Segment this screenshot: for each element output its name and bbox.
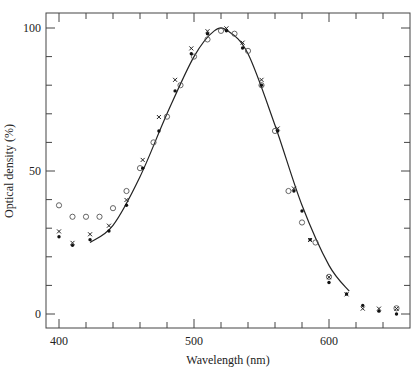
circle-marker: [83, 214, 88, 219]
dot-marker: [88, 238, 91, 241]
dot-marker: [107, 229, 110, 232]
cross-marker: [361, 307, 365, 311]
cross-marker: [107, 224, 111, 228]
dot-marker: [377, 309, 380, 312]
cross-marker: [327, 275, 331, 279]
cross-marker: [141, 158, 145, 162]
dot-marker: [345, 292, 348, 295]
x-tick-label: 500: [185, 334, 203, 348]
circle-marker: [56, 203, 61, 208]
x-tick-label: 600: [320, 334, 338, 348]
fitted-curve: [90, 28, 349, 291]
axis-ticks: [46, 13, 410, 328]
dot-marker: [260, 84, 263, 87]
y-axis-label: Optical density (%): [2, 124, 16, 218]
dot-marker: [173, 89, 176, 92]
dot-marker: [361, 304, 364, 307]
dot-marker: [71, 244, 74, 247]
dot-marker: [292, 189, 295, 192]
y-tick-label: 0: [35, 307, 41, 321]
x-axis-label: Wavelength (nm): [186, 353, 269, 367]
dot-marker: [225, 29, 228, 32]
dot-marker: [300, 209, 303, 212]
cross-marker: [157, 115, 161, 119]
cross-marker: [260, 78, 264, 82]
dot-marker: [141, 166, 144, 169]
dot-marker: [190, 52, 193, 55]
x-tick-label: 400: [50, 334, 68, 348]
dot-marker: [308, 238, 311, 241]
dot-marker: [276, 129, 279, 132]
cross-marker: [189, 46, 193, 50]
cross-marker: [173, 78, 177, 82]
dot-marker: [206, 32, 209, 35]
circle-marker: [97, 214, 102, 219]
circle-marker: [110, 206, 115, 211]
dot-marker: [57, 235, 60, 238]
cross-marker: [395, 307, 399, 311]
y-tick-label: 100: [23, 21, 41, 35]
dot-marker: [395, 312, 398, 315]
dot-marker: [125, 204, 128, 207]
dot-marker: [241, 46, 244, 49]
dot-marker: [327, 281, 330, 284]
plot-frame: [46, 13, 410, 328]
circle-marker: [70, 214, 75, 219]
dot-marker: [157, 129, 160, 132]
optical-density-chart: 400500600050100 Wavelength (nm) Optical …: [0, 0, 420, 378]
y-tick-label: 50: [29, 164, 41, 178]
circle-marker: [218, 28, 223, 33]
cross-marker: [88, 232, 92, 236]
circle-marker: [124, 188, 129, 193]
circle-marker: [286, 188, 291, 193]
circle-marker: [299, 220, 304, 225]
data-points: [56, 26, 399, 315]
cross-marker: [57, 229, 61, 233]
tick-labels: 400500600050100: [23, 21, 338, 348]
